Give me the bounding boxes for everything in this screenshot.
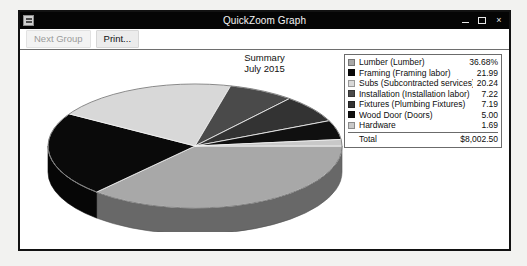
legend-item: Framing (Framing labor)21.99: [348, 68, 498, 79]
legend-item-value: 7.22: [477, 89, 498, 100]
legend-swatch: [348, 80, 355, 87]
chart-title: Summary: [244, 52, 285, 63]
legend-item: Fixtures (Plumbing Fixtures)7.19: [348, 99, 498, 110]
legend-item-value: 21.99: [473, 68, 498, 79]
legend-item: Wood Door (Doors)5.00: [348, 110, 498, 121]
chart-canvas: Summary July 2015 Lumber (Lumber)36.68%F…: [20, 50, 509, 249]
legend-item: Subs (Subcontracted services)20.24: [348, 78, 498, 89]
screen: QuickZoom Graph × Next Group Print... Su…: [0, 0, 527, 266]
app-icon: [23, 15, 34, 26]
legend-item: Installation (Installation labor)7.22: [348, 89, 498, 100]
legend-swatch: [348, 122, 355, 129]
legend-rows: Lumber (Lumber)36.68%Framing (Framing la…: [348, 57, 498, 131]
maximize-icon[interactable]: [477, 17, 487, 24]
legend-item-value: 36.68%: [465, 57, 498, 68]
quickzoom-graph-window: QuickZoom Graph × Next Group Print... Su…: [18, 10, 511, 251]
legend-item-value: 5.00: [477, 110, 498, 121]
legend-total-value: $8,002.50: [456, 134, 498, 145]
legend-item-value: 20.24: [473, 78, 498, 89]
pie-chart-svg: [30, 72, 360, 232]
legend-swatch: [348, 59, 355, 66]
legend-swatch: [348, 101, 355, 108]
toolbar: Next Group Print...: [20, 29, 509, 50]
legend-total-row: Total $8,002.50: [348, 132, 498, 145]
legend-item-label: Fixtures (Plumbing Fixtures): [359, 99, 477, 110]
legend-item-label: Wood Door (Doors): [359, 110, 477, 121]
title-bar: QuickZoom Graph ×: [20, 12, 509, 29]
legend-total-label: Total: [348, 134, 456, 145]
legend-item-label: Lumber (Lumber): [359, 57, 465, 68]
legend-swatch: [348, 69, 355, 76]
window-title: QuickZoom Graph: [223, 15, 306, 26]
legend-item: Lumber (Lumber)36.68%: [348, 57, 498, 68]
legend-item-label: Installation (Installation labor): [359, 89, 477, 100]
legend-item-value: 7.19: [477, 99, 498, 110]
legend: Lumber (Lumber)36.68%Framing (Framing la…: [344, 54, 502, 148]
next-group-button[interactable]: Next Group: [26, 30, 91, 48]
print-button[interactable]: Print...: [96, 30, 139, 48]
close-icon[interactable]: ×: [494, 16, 504, 25]
legend-swatch: [348, 111, 355, 118]
legend-item-label: Hardware: [359, 120, 477, 131]
minimize-icon[interactable]: [460, 18, 470, 23]
legend-item-label: Framing (Framing labor): [359, 68, 473, 79]
legend-item: Hardware1.69: [348, 120, 498, 131]
window-controls: ×: [460, 12, 504, 29]
legend-item-value: 1.69: [477, 120, 498, 131]
legend-item-label: Subs (Subcontracted services): [359, 78, 473, 89]
pie-chart: [30, 72, 360, 232]
legend-swatch: [348, 90, 355, 97]
